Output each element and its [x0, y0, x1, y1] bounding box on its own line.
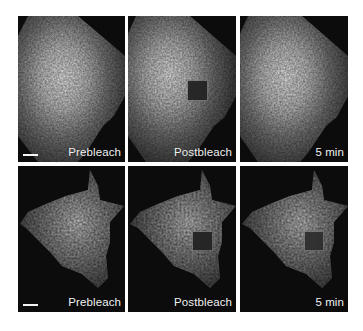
timepoint-label: Postbleach — [174, 297, 232, 309]
timepoint-label: Prebleach — [68, 147, 121, 159]
cell-image — [240, 16, 348, 162]
timepoint-label: 5 min — [315, 297, 344, 309]
panel-row2-prebleach: Prebleach — [18, 166, 125, 312]
bleach-region-box — [305, 232, 323, 250]
panel-row1-prebleach: Prebleach — [18, 16, 125, 162]
timepoint-label: Prebleach — [68, 297, 121, 309]
timepoint-label: Postbleach — [174, 147, 232, 159]
cell-image — [18, 16, 125, 162]
panel-row1-postbleach: Postbleach — [128, 16, 236, 162]
scale-bar — [23, 304, 38, 307]
bleach-region-box — [188, 81, 207, 100]
panel-row2-postbleach: Postbleach — [128, 166, 236, 312]
panel-row1-5min: 5 min — [240, 16, 348, 162]
timepoint-label: 5 min — [315, 147, 344, 159]
cell-image — [128, 16, 236, 162]
bleach-region-box — [193, 232, 212, 250]
cell-image — [128, 166, 236, 312]
panel-row2-5min: 5 min — [240, 166, 348, 312]
frap-figure: Prebleach Postbleach — [0, 0, 363, 331]
scale-bar — [23, 154, 38, 157]
cell-image — [240, 166, 348, 312]
cell-image — [18, 166, 125, 312]
